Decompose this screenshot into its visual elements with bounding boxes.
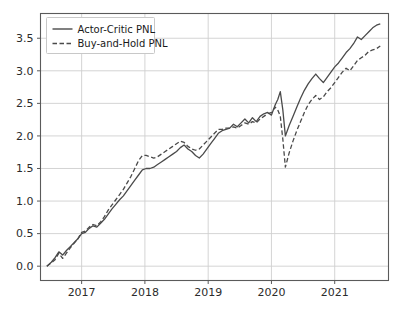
y-tick-label: 2.5	[16, 97, 34, 110]
y-tick-label: 0.0	[16, 260, 34, 273]
y-tick-label: 3.5	[16, 32, 34, 45]
pnl-line-chart: 0.00.51.01.52.02.53.03.5 201720182019202…	[0, 0, 401, 315]
y-tick-label: 3.0	[16, 65, 34, 78]
x-tick-label: 2018	[131, 286, 159, 299]
chart-figure: 0.00.51.01.52.02.53.03.5 201720182019202…	[0, 0, 401, 315]
y-tick-label: 1.5	[16, 162, 34, 175]
x-tick-label: 2019	[194, 286, 222, 299]
legend-label-actor-critic: Actor-Critic PNL	[78, 24, 156, 35]
x-tick-label: 2017	[68, 286, 96, 299]
y-tick-label: 2.0	[16, 130, 34, 143]
x-tick-label: 2021	[321, 286, 349, 299]
y-tick-label: 0.5	[16, 227, 34, 240]
y-tick-label: 1.0	[16, 195, 34, 208]
x-tick-label: 2020	[257, 286, 285, 299]
chart-legend: Actor-Critic PNLBuy-and-Hold PNL	[47, 18, 168, 54]
legend-label-buy-and-hold: Buy-and-Hold PNL	[78, 38, 168, 49]
